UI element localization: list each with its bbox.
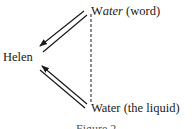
- word-suffix: (word): [123, 4, 160, 18]
- word-prefix: W: [91, 4, 103, 18]
- node-water-liquid: Water (the liquid): [91, 101, 180, 115]
- node-helen: Helen: [3, 50, 33, 64]
- node-water-word: Water (word): [91, 4, 160, 18]
- upper-arrow: [40, 11, 87, 52]
- figure-caption: Figure 2: [76, 122, 116, 129]
- lower-arrow: [40, 66, 87, 108]
- word-italic: ater: [103, 4, 123, 18]
